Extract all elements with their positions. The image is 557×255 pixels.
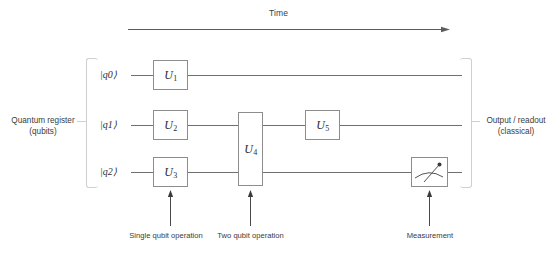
quantum-circuit-diagram: Time Quantum register (qubits) Output / … xyxy=(0,0,557,255)
output-readout-label-line1: Output / readout xyxy=(478,115,554,126)
quantum-register-label-line2: (qubits) xyxy=(8,126,78,137)
output-readout-label: Output / readout (classical) xyxy=(478,115,554,137)
output-readout-bracket xyxy=(460,58,472,188)
wire-q2-seg2 xyxy=(263,172,411,173)
gate-u4-label: U xyxy=(244,142,253,157)
qubit-label-q0: |q0⟩ xyxy=(100,69,130,80)
wire-q0-seg0 xyxy=(131,75,153,76)
wire-q1-seg2 xyxy=(263,125,305,126)
wire-q2-seg1 xyxy=(188,172,238,173)
gate-u3[interactable]: U3 xyxy=(153,157,188,187)
gate-u1-subscript: 1 xyxy=(173,74,177,83)
gate-u5-subscript: 5 xyxy=(325,124,329,133)
measurement-box[interactable] xyxy=(411,157,448,187)
callout-arrow-measurement xyxy=(425,190,434,226)
quantum-register-bracket xyxy=(86,58,98,188)
callout-arrow-two-qubit xyxy=(246,190,255,226)
gate-u4-subscript: 4 xyxy=(253,148,257,157)
wire-q1-seg3 xyxy=(340,125,462,126)
qubit-label-q1: |q1⟩ xyxy=(100,119,130,130)
quantum-register-label: Quantum register (qubits) xyxy=(8,115,78,137)
wire-q1-seg0 xyxy=(131,125,153,126)
wire-q1-seg1 xyxy=(188,125,238,126)
wire-q2-seg3 xyxy=(448,172,462,173)
meter-gauge-icon xyxy=(412,158,447,186)
gate-u5-label: U xyxy=(316,118,325,133)
gate-u3-subscript: 3 xyxy=(173,171,177,180)
gate-u2-label: U xyxy=(164,118,173,133)
gate-u1-label: U xyxy=(164,68,173,83)
quantum-register-label-line1: Quantum register xyxy=(8,115,78,126)
wire-q0-seg1 xyxy=(188,75,462,76)
qubit-label-q2: |q2⟩ xyxy=(100,166,130,177)
wire-q2-seg0 xyxy=(131,172,153,173)
output-readout-label-line2: (classical) xyxy=(478,126,554,137)
gate-u1[interactable]: U1 xyxy=(153,60,188,90)
gate-u5[interactable]: U5 xyxy=(305,110,340,140)
gate-u4[interactable]: U4 xyxy=(238,112,263,186)
time-axis-label: Time xyxy=(0,8,557,18)
time-axis-arrow xyxy=(128,25,450,34)
callout-label-measurement: Measurement xyxy=(385,231,475,240)
callout-label-two-qubit: Two qubit operation xyxy=(194,231,307,240)
quantum-register-bracket-tick xyxy=(77,121,86,122)
gate-u3-label: U xyxy=(164,165,173,180)
gate-u2[interactable]: U2 xyxy=(153,110,188,140)
callout-arrow-single-qubit xyxy=(166,190,175,226)
gate-u2-subscript: 2 xyxy=(173,124,177,133)
